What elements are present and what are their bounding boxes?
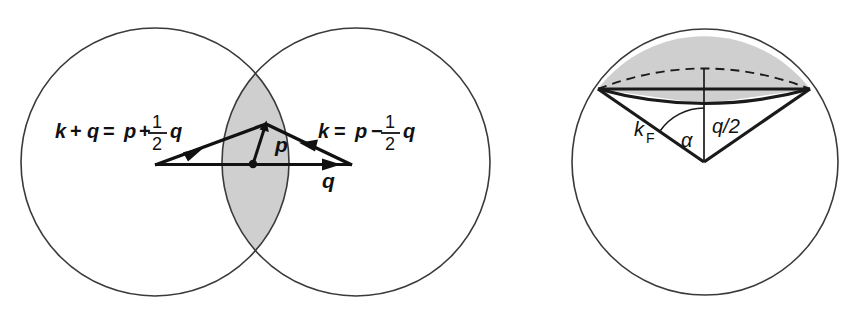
- equation-right-q-last: q: [403, 120, 415, 142]
- label-vector-q: q: [322, 169, 335, 192]
- label-q-over-2: q/2: [712, 115, 740, 137]
- equation-left-q-first: q: [87, 120, 99, 142]
- label-k-fermi-base: k: [634, 118, 645, 140]
- label-vector-p: p: [274, 133, 288, 156]
- label-angle-alpha: α: [681, 129, 693, 151]
- label-k-fermi-subscript: F: [646, 130, 655, 146]
- equation-left-q-last: q: [170, 120, 182, 142]
- equation-right-k: k: [318, 120, 330, 142]
- equation-right-frac-denominator: 2: [385, 134, 395, 154]
- equation-right-op-sign: −: [371, 120, 383, 142]
- lens-shade-shape: [222, 28, 490, 296]
- equation-left-plus: +: [70, 120, 82, 142]
- equation-right-p: p: [354, 120, 367, 142]
- equation-k: k = p − 1 2 q: [318, 112, 415, 154]
- equation-left-p: p: [123, 120, 136, 142]
- right-panel-group: k F α q/2: [572, 29, 838, 295]
- equation-left-k: k: [55, 120, 67, 142]
- equation-k-plus-q: k + q = p + 1 2 q: [55, 112, 182, 154]
- left-panel-group: k + q = p + 1 2 q k = p − 1 2 q: [21, 28, 490, 296]
- angle-alpha-arc: [660, 108, 704, 131]
- equation-left-frac-numerator: 1: [152, 112, 162, 132]
- equation-right-frac-numerator: 1: [385, 112, 395, 132]
- equation-right-equals: =: [334, 120, 346, 142]
- lens-shaded-region: [222, 28, 490, 296]
- equation-left-equals: =: [103, 120, 115, 142]
- equation-left-frac-denominator: 2: [152, 134, 162, 154]
- figure-canvas: k + q = p + 1 2 q k = p − 1 2 q: [0, 0, 859, 314]
- physics-figure: k + q = p + 1 2 q k = p − 1 2 q: [0, 0, 859, 314]
- equation-left-op-sign: +: [139, 120, 151, 142]
- origin-dot: [249, 160, 257, 168]
